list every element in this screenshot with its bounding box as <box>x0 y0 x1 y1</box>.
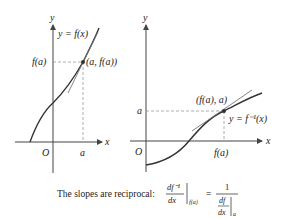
right-y-label: y <box>142 12 148 23</box>
left-a-tick-label: a <box>80 147 85 158</box>
left-point <box>81 60 85 64</box>
caption-text: The slopes are reciprocal: <box>57 189 155 199</box>
right-origin-label: O <box>135 146 142 157</box>
left-origin-label: O <box>42 147 49 158</box>
right-a-tick-label: a <box>137 105 142 116</box>
right-graph: y x O y = f⁻¹(x) a f(a) (f(a), a) <box>130 12 271 172</box>
left-curve-label: y = f(x) <box>57 28 89 40</box>
equals-sign: = <box>206 189 211 199</box>
left-curve-f <box>30 28 99 142</box>
inverse-function-diagram: y x O y = f(x) f(a) a (a, f(a)) y x O y … <box>0 0 281 219</box>
right-point-label: (f(a), a) <box>196 94 228 106</box>
lhs-denominator: dx <box>168 195 176 205</box>
left-point-label: (a, f(a)) <box>86 56 118 68</box>
rhs-inner-numerator: df <box>219 196 227 205</box>
lhs-eval-point: f(a) <box>189 199 198 206</box>
caption-formula: The slopes are reciprocal: df⁻¹ dx f(a) … <box>57 182 238 217</box>
rhs-inner-denominator: dx <box>218 208 226 217</box>
right-point <box>222 109 226 113</box>
left-y-label: y <box>49 12 55 23</box>
left-fa-tick-label: f(a) <box>32 56 47 68</box>
left-graph: y x O y = f(x) f(a) a (a, f(a)) <box>15 12 118 173</box>
rhs-numerator: 1 <box>225 182 229 192</box>
left-x-label: x <box>104 136 110 147</box>
lhs-numerator: df⁻¹ <box>167 182 181 192</box>
right-curve-label: y = f⁻¹(x) <box>228 113 268 125</box>
right-x-label: x <box>265 135 271 146</box>
right-fa-tick-label: f(a) <box>214 147 229 159</box>
rhs-eval-point: a <box>233 211 236 217</box>
